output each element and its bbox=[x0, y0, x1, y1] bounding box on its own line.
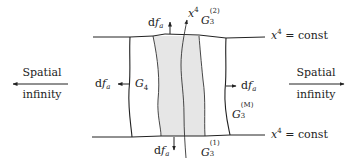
time-axis-label: x4 bbox=[188, 8, 199, 19]
g-base: G bbox=[201, 146, 210, 159]
const-text: = const bbox=[282, 128, 328, 141]
g-sub: 3 bbox=[210, 151, 214, 158]
g-sub: 3 bbox=[210, 19, 214, 26]
a-sub: a bbox=[252, 85, 256, 93]
g-base: G bbox=[232, 108, 241, 121]
d-text: d bbox=[241, 79, 248, 92]
infinity-left-label: infinity bbox=[22, 89, 62, 100]
g-sub: 4 bbox=[144, 84, 148, 92]
bottom-const-label: x4 = const bbox=[271, 129, 328, 140]
g-sup: (1) bbox=[210, 140, 220, 147]
spatial-label-left: Spatial bbox=[22, 66, 61, 79]
g-sup: (M) bbox=[241, 102, 254, 109]
d-text: d bbox=[154, 144, 161, 157]
a-sub: a bbox=[106, 83, 110, 91]
df-bottom-label: dfa bbox=[154, 145, 169, 156]
spatial-infinity-left-label: Spatial bbox=[22, 67, 62, 78]
df-top-label: dfa bbox=[148, 17, 163, 28]
g-base: G bbox=[201, 14, 210, 27]
spatial-infinity-right-label: Spatial bbox=[296, 67, 336, 78]
g4-label: G4 bbox=[135, 78, 148, 89]
a-sub: a bbox=[165, 150, 169, 158]
infinity-label-right: infinity bbox=[296, 88, 335, 101]
shaded-world-tube bbox=[153, 36, 205, 136]
g-sub: 3 bbox=[241, 113, 245, 120]
infinity-right-label: infinity bbox=[296, 89, 336, 100]
x-sup: 4 bbox=[277, 127, 281, 135]
d-text: d bbox=[95, 77, 102, 90]
left-boundary-line bbox=[129, 37, 132, 137]
a-sub: a bbox=[159, 22, 163, 30]
const-text: = const bbox=[282, 29, 328, 42]
infinity-label-left: infinity bbox=[22, 88, 61, 101]
x-sup: 4 bbox=[277, 28, 281, 36]
g3-1-label: G(1)3 bbox=[201, 146, 224, 158]
g-base: G bbox=[135, 77, 144, 90]
spatial-label-right: Spatial bbox=[296, 66, 335, 79]
df-right-label: dfa bbox=[241, 80, 256, 91]
g3-2-label: G(2)3 bbox=[201, 14, 224, 26]
d-text: d bbox=[148, 16, 155, 29]
g3-m-label: G(M)3 bbox=[232, 108, 261, 120]
g-sup: (2) bbox=[210, 8, 220, 15]
x-sup: 4 bbox=[194, 6, 198, 14]
df-left-label: dfa bbox=[95, 78, 110, 89]
spacetime-region-diagram: Spatial infinity Spatial infinity x4 = c… bbox=[0, 0, 358, 162]
top-const-label: x4 = const bbox=[271, 30, 328, 41]
